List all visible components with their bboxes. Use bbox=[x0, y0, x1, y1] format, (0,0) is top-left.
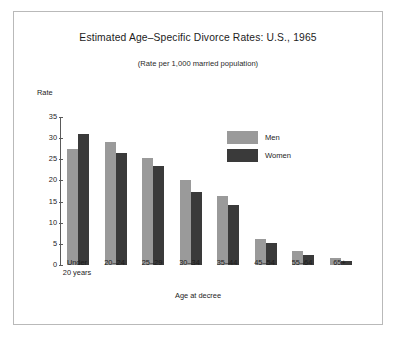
x-axis-tick-label: 30–34 bbox=[170, 258, 210, 268]
x-axis-tick-label: 65+ bbox=[320, 258, 360, 268]
bar-men bbox=[142, 158, 153, 265]
bar-group bbox=[142, 117, 164, 265]
bar-group bbox=[180, 117, 202, 265]
x-axis-tick-label-line: 20 years bbox=[57, 268, 97, 278]
x-axis-tick-label: Under20 years bbox=[57, 258, 97, 277]
legend-swatch-women bbox=[227, 149, 258, 162]
bar-group bbox=[105, 117, 127, 265]
bar-group bbox=[67, 117, 89, 265]
bar-women bbox=[228, 205, 239, 265]
x-axis-tick-label: 55–64 bbox=[282, 258, 322, 268]
x-axis-tick-label: 35–44 bbox=[207, 258, 247, 268]
bar-women bbox=[116, 153, 127, 265]
x-axis-tick-label: 45–54 bbox=[245, 258, 285, 268]
bar-women bbox=[78, 134, 89, 265]
chart-figure-frame: Estimated Age–Specific Divorce Rates: U.… bbox=[13, 11, 383, 325]
chart-subtitle: (Rate per 1,000 married population) bbox=[14, 59, 382, 68]
bar-group bbox=[292, 117, 314, 265]
bar-men bbox=[217, 196, 228, 265]
y-axis-tick-label: 30 bbox=[49, 133, 57, 142]
legend-swatch-men bbox=[227, 131, 258, 144]
chart-title: Estimated Age–Specific Divorce Rates: U.… bbox=[14, 32, 382, 43]
bar-men bbox=[180, 180, 191, 265]
bar-women bbox=[191, 192, 202, 265]
y-axis-tick-label: 20 bbox=[49, 175, 57, 184]
y-axis-tick-label: 5 bbox=[53, 239, 57, 248]
bar-men bbox=[105, 142, 116, 265]
bar-group bbox=[330, 117, 352, 265]
legend-label: Men bbox=[265, 133, 280, 142]
x-axis-tick-label-line: Under bbox=[57, 258, 97, 268]
bar-men bbox=[67, 149, 78, 265]
y-axis-title: Rate bbox=[37, 88, 53, 97]
bar-women bbox=[153, 166, 164, 265]
legend-label: Women bbox=[265, 151, 291, 160]
plot-area: 05101520253035 Under20 years20–2425–2930… bbox=[60, 106, 370, 266]
x-axis-tick-label: 25–29 bbox=[132, 258, 172, 268]
x-axis-title: Age at decree bbox=[14, 291, 382, 300]
y-axis-tick-label: 25 bbox=[49, 154, 57, 163]
x-axis-tick-label: 20–24 bbox=[95, 258, 135, 268]
y-axis-tick-label: 35 bbox=[49, 112, 57, 121]
y-axis-tick-label: 10 bbox=[49, 218, 57, 227]
bar-groups bbox=[61, 117, 370, 265]
y-axis-tick-label: 15 bbox=[49, 197, 57, 206]
